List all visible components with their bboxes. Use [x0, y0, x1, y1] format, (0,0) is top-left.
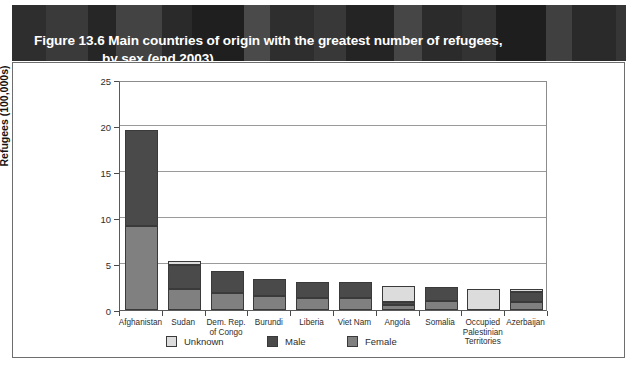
bar-segment-female[interactable]	[425, 301, 458, 310]
bar-group[interactable]	[168, 82, 201, 310]
bar-segment-male[interactable]	[253, 279, 286, 296]
y-tick-label: 20	[77, 122, 111, 133]
y-tick-label: 25	[77, 76, 111, 87]
bar-segment-unknown[interactable]	[467, 289, 500, 310]
bar-segment-female[interactable]	[296, 298, 329, 310]
x-tick-mark	[247, 311, 248, 316]
bar-segment-female[interactable]	[168, 289, 201, 310]
x-tick-mark	[205, 311, 206, 316]
bar-group[interactable]	[125, 82, 158, 310]
y-tick-label: 10	[77, 214, 111, 225]
figure-title-line1: Figure 13.6 Main countries of origin wit…	[34, 33, 502, 48]
x-tick-mark	[119, 311, 120, 316]
header-band-stripe	[616, 5, 626, 61]
bar-segment-female[interactable]	[211, 293, 244, 310]
legend-item[interactable]: Male	[267, 336, 306, 347]
x-tick-mark	[162, 311, 163, 316]
bar-segment-male[interactable]	[382, 302, 415, 306]
bar-segment-female[interactable]	[510, 302, 543, 310]
bar-segment-male[interactable]	[296, 282, 329, 299]
plot-area	[119, 81, 547, 311]
legend-label: Male	[285, 336, 306, 347]
bar-segment-unknown[interactable]	[510, 289, 543, 292]
bar-group[interactable]	[339, 82, 372, 310]
bar-segment-male[interactable]	[168, 265, 201, 289]
y-tick-label: 5	[77, 260, 111, 271]
legend-item[interactable]: Unknown	[166, 336, 224, 347]
figure-header-band: Figure 13.6 Main countries of origin wit…	[12, 5, 626, 61]
bar-group[interactable]	[425, 82, 458, 310]
bar-segment-unknown[interactable]	[382, 286, 415, 302]
x-tick-mark	[504, 311, 505, 316]
y-tick-label: 0	[77, 306, 111, 317]
bar-group[interactable]	[510, 82, 543, 310]
bar-segment-male[interactable]	[211, 271, 244, 293]
x-tick-mark	[419, 311, 420, 316]
legend-label: Unknown	[184, 336, 224, 347]
figure-title-line2: by sex (end 2003)	[34, 50, 604, 61]
x-tick-mark	[333, 311, 334, 316]
x-tick-mark	[461, 311, 462, 316]
bar-group[interactable]	[382, 82, 415, 310]
bar-segment-male[interactable]	[425, 287, 458, 301]
x-tick-mark	[376, 311, 377, 316]
legend-label: Female	[365, 336, 397, 347]
y-axis-title: Refugees (100,000s)	[0, 36, 10, 196]
legend-swatch-unknown	[166, 336, 177, 347]
bar-group[interactable]	[211, 82, 244, 310]
legend-item[interactable]: Female	[347, 336, 397, 347]
bar-segment-male[interactable]	[125, 130, 158, 227]
x-axis: AfghanistanSudanDem. Rep. of CongoBurund…	[119, 311, 547, 357]
bar-segment-female[interactable]	[125, 226, 158, 310]
bar-segment-female[interactable]	[253, 296, 286, 310]
figure-title: Figure 13.6 Main countries of origin wit…	[34, 14, 604, 61]
figure-root: Figure 13.6 Main countries of origin wit…	[0, 0, 638, 371]
bar-segment-unknown[interactable]	[168, 261, 201, 265]
bar-segment-male[interactable]	[339, 282, 372, 299]
bar-segment-female[interactable]	[382, 305, 415, 310]
x-tick-mark	[547, 311, 548, 316]
bar-group[interactable]	[467, 82, 500, 310]
x-tick-mark	[290, 311, 291, 316]
legend-swatch-female	[347, 336, 358, 347]
bar-segment-male[interactable]	[510, 292, 543, 302]
x-tick-label: Azerbaijan	[497, 318, 554, 328]
bar-segment-female[interactable]	[339, 298, 372, 310]
bar-group[interactable]	[253, 82, 286, 310]
legend-swatch-male	[267, 336, 278, 347]
bar-group[interactable]	[296, 82, 329, 310]
y-tick-label: 15	[77, 168, 111, 179]
